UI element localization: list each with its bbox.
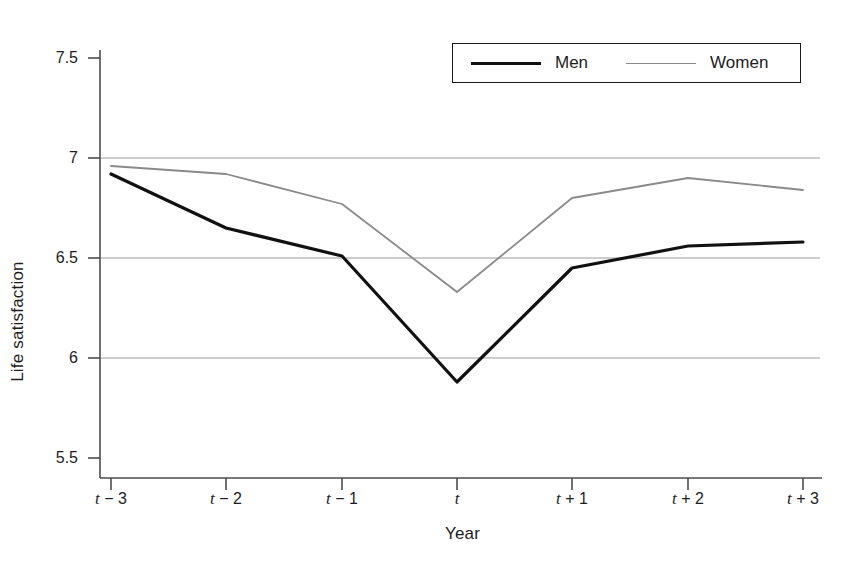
gridlines bbox=[100, 158, 820, 358]
series-line-men bbox=[111, 174, 803, 382]
y-axis-title: Life satisfaction bbox=[0, 0, 36, 568]
x-tick-label-1: t − 2 bbox=[171, 489, 281, 509]
x-tick-suffix-5: + 2 bbox=[677, 490, 704, 507]
x-tick-suffix-4: + 1 bbox=[561, 490, 588, 507]
chart-legend: Men Women bbox=[452, 43, 801, 83]
axis-lines bbox=[100, 50, 822, 478]
legend-item-women: Women bbox=[626, 44, 768, 82]
y-tick-label-6: 6 bbox=[18, 349, 78, 367]
legend-swatch-women-line-icon bbox=[626, 63, 696, 64]
x-tick-label-0: t − 3 bbox=[56, 489, 166, 509]
x-tick-label-3: t bbox=[402, 489, 512, 509]
x-tick-label-2: t − 1 bbox=[287, 489, 397, 509]
y-tick-label-7point5: 7.5 bbox=[18, 49, 78, 67]
x-tick-suffix-2: − 1 bbox=[331, 490, 358, 507]
plot-area bbox=[0, 0, 853, 568]
y-tick-label-7: 7 bbox=[18, 149, 78, 167]
x-tick-suffix-0: − 3 bbox=[100, 490, 127, 507]
x-tick-label-6: t + 3 bbox=[748, 489, 853, 509]
x-tick-suffix-6: + 3 bbox=[792, 490, 819, 507]
y-axis-ticks bbox=[88, 58, 100, 458]
x-tick-base-3: t bbox=[455, 489, 460, 508]
legend-item-men: Men bbox=[471, 44, 588, 82]
x-axis-title: Year bbox=[100, 524, 825, 544]
life-satisfaction-line-chart: Life satisfaction Year 7.5 7 6.5 6 5.5 t… bbox=[0, 0, 853, 568]
x-tick-label-5: t + 2 bbox=[633, 489, 743, 509]
y-tick-label-5point5: 5.5 bbox=[18, 449, 78, 467]
x-tick-label-4: t + 1 bbox=[517, 489, 627, 509]
legend-label-men: Men bbox=[555, 53, 588, 73]
x-tick-suffix-1: − 2 bbox=[215, 490, 242, 507]
series-line-women bbox=[111, 166, 803, 292]
legend-swatch-men-line-icon bbox=[471, 62, 541, 65]
y-tick-label-6point5: 6.5 bbox=[18, 249, 78, 267]
legend-label-women: Women bbox=[710, 53, 768, 73]
